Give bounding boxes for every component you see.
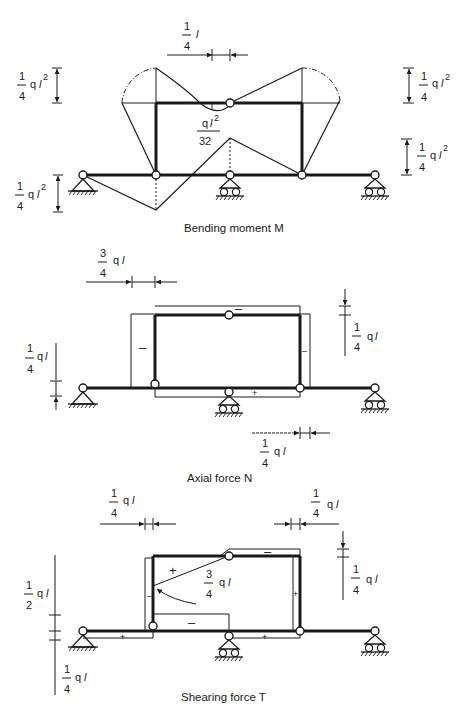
dim-ell: l xyxy=(45,350,48,362)
dimension-left: 1 2 q l 1 4 q l xyxy=(24,555,87,695)
dim-denominator: 4 xyxy=(313,507,319,519)
mid-shear-label: 3 4 q l xyxy=(204,568,231,600)
sign-beam-right: + xyxy=(262,632,267,642)
dim-unit: q xyxy=(123,494,129,506)
hinge-left xyxy=(149,622,157,630)
dim-numerator: 1 xyxy=(64,663,70,675)
dim-numerator: 1 xyxy=(111,487,117,499)
hinge-right xyxy=(296,627,304,635)
dim-ell: l xyxy=(37,188,40,200)
dim-unit: q xyxy=(30,78,36,90)
dim-ell: l xyxy=(439,149,442,161)
dimension-right-top: 1 4 q l 2 xyxy=(403,68,450,103)
hinge-left xyxy=(152,171,160,179)
dim-numerator: 1 xyxy=(19,70,25,82)
dim-numerator: 1 xyxy=(184,20,190,32)
sign-right-column: + xyxy=(293,589,298,599)
label-exponent: 2 xyxy=(214,113,219,123)
dim-denominator: 4 xyxy=(184,40,190,52)
dimension-right-bottom: 1 4 q l 2 xyxy=(401,139,448,175)
roller-support-icon xyxy=(215,632,243,661)
dimension-left-bottom: 1 4 q l 2 xyxy=(15,175,63,212)
dim-numerator: 1 xyxy=(26,579,32,591)
dim-unit: q xyxy=(37,587,43,599)
dim-numerator: 1 xyxy=(419,141,425,153)
structural-diagram-canvas: 1 4 l 1 4 q l 2 1 4 q l xyxy=(0,0,462,724)
dimension-top: 3 4 q l xyxy=(86,247,177,288)
dim-unit: q xyxy=(274,445,280,457)
sign-top-positive: + xyxy=(169,563,177,578)
dimension-top-left: 1 4 q l xyxy=(100,487,176,530)
shearing-force-panel: 1 4 q l 1 4 q l 1 xyxy=(24,487,389,703)
dimension-top-right: 1 4 q l xyxy=(274,487,339,530)
dim-exponent: 2 xyxy=(41,182,46,192)
dim-denominator: 4 xyxy=(262,457,268,469)
dimension-left: 1 4 q l xyxy=(25,342,62,410)
dim-numerator: 1 xyxy=(421,70,427,82)
dim-ell: l xyxy=(375,330,378,342)
dim-exponent: 2 xyxy=(443,143,448,153)
dim-ell: l xyxy=(132,494,135,506)
dim-ell: l xyxy=(283,445,286,457)
hinge-top xyxy=(225,552,233,560)
dim-unit: l xyxy=(196,28,199,40)
bending-moment-panel: 1 4 l 1 4 q l 2 1 4 q l xyxy=(15,20,450,234)
label-numerator: q xyxy=(202,117,208,129)
dim-unit: q xyxy=(75,671,81,683)
hinge-top xyxy=(226,99,234,107)
dim-denominator: 4 xyxy=(100,267,106,279)
roller-support-icon xyxy=(215,388,243,417)
dim-numerator: 1 xyxy=(354,321,360,333)
dim-unit: q xyxy=(113,254,119,266)
dim-ell: l xyxy=(441,77,444,89)
dim-denominator: 4 xyxy=(111,507,117,519)
dim-unit: q xyxy=(366,573,372,585)
dim-denominator: 4 xyxy=(419,161,425,173)
sign-middle-negative: – xyxy=(188,615,196,630)
dim-denominator: 4 xyxy=(17,200,23,212)
label-ell: l xyxy=(210,117,213,129)
dimension-bottom: 1 4 q l xyxy=(252,427,330,469)
frame-structure xyxy=(83,311,375,392)
dim-numerator: 1 xyxy=(262,437,268,449)
sign-beam-left: + xyxy=(120,632,125,642)
dim-ell: l xyxy=(84,671,87,683)
sign-right-column: – xyxy=(302,346,307,356)
label-numerator: 3 xyxy=(206,568,212,580)
dim-unit: q xyxy=(327,498,333,510)
sign-left-column: – xyxy=(139,340,147,355)
dim-denominator: 4 xyxy=(354,341,360,353)
label-unit: q xyxy=(219,576,225,588)
dim-denominator: 4 xyxy=(27,363,33,375)
dim-unit: q xyxy=(432,77,438,89)
hinge-right xyxy=(296,384,304,392)
axial-force-panel: 3 4 q l 1 4 q l xyxy=(25,247,389,484)
caption-bending-moment: Bending moment M xyxy=(184,222,284,234)
dim-unit: q xyxy=(430,149,436,161)
dimension-right: 1 4 q l xyxy=(337,531,378,600)
dim-ell: l xyxy=(122,254,125,266)
hinge-right xyxy=(298,171,306,179)
dim-exponent: 2 xyxy=(445,72,450,82)
hinge-left xyxy=(151,380,159,388)
dim-numerator: 3 xyxy=(100,247,106,259)
dim-exponent: 2 xyxy=(43,72,48,82)
dim-numerator: 1 xyxy=(27,342,33,354)
label-denominator: 4 xyxy=(206,588,212,600)
dim-ell: l xyxy=(336,498,339,510)
dimension-left-top: 1 4 q l 2 xyxy=(17,68,62,103)
dim-numerator: 1 xyxy=(17,180,23,192)
caption-shearing-force: Shearing force T xyxy=(181,691,266,703)
dim-numerator: 1 xyxy=(313,487,319,499)
label-denominator: 32 xyxy=(199,135,211,147)
dim-ell: l xyxy=(39,78,42,90)
dim-unit: q xyxy=(37,350,43,362)
dim-ell: l xyxy=(46,587,49,599)
sign-left-column: – xyxy=(147,591,152,601)
dim-denominator: 4 xyxy=(19,90,25,102)
mid-moment-label: q l 2 32 xyxy=(197,113,220,147)
label-ell: l xyxy=(228,576,231,588)
dim-unit: q xyxy=(28,188,34,200)
caption-axial-force: Axial force N xyxy=(187,472,252,484)
dim-unit: q xyxy=(367,330,373,342)
